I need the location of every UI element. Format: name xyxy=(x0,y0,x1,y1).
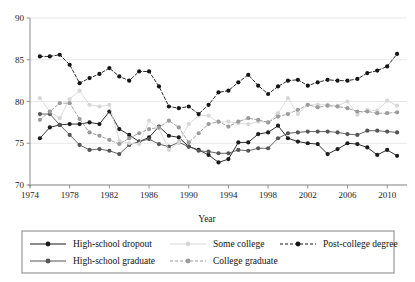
data-point xyxy=(48,54,52,58)
data-point xyxy=(78,81,82,85)
data-point xyxy=(286,131,290,135)
y-tick-label-70: 70 xyxy=(15,180,25,190)
legend-label: Some college xyxy=(213,239,264,249)
data-point xyxy=(345,132,349,136)
data-point xyxy=(147,137,151,141)
data-point xyxy=(137,131,141,135)
data-point xyxy=(38,136,42,140)
data-point xyxy=(127,79,131,83)
data-point xyxy=(58,116,62,120)
x-tick-label-1982: 1982 xyxy=(100,190,118,200)
data-point xyxy=(266,130,270,134)
data-point xyxy=(365,109,369,113)
data-point xyxy=(355,142,359,146)
x-tick-label-2006: 2006 xyxy=(338,190,357,200)
data-point xyxy=(296,112,300,116)
x-tick-label-1998: 1998 xyxy=(259,190,278,200)
data-point xyxy=(335,104,339,108)
legend-item-college-graduate[interactable]: College graduate xyxy=(170,256,278,266)
data-point xyxy=(206,122,210,126)
data-point xyxy=(395,104,399,108)
data-point xyxy=(296,78,300,82)
data-point xyxy=(107,103,111,107)
legend-item-post-college-degree[interactable]: Post-college degree xyxy=(280,239,398,249)
x-tick-label-1994: 1994 xyxy=(219,190,238,200)
data-point xyxy=(355,109,359,113)
data-point xyxy=(335,147,339,151)
data-point xyxy=(147,69,151,73)
data-series-group xyxy=(38,52,399,165)
data-point xyxy=(246,116,250,120)
data-point xyxy=(167,119,171,123)
data-point xyxy=(316,80,320,84)
data-point xyxy=(236,140,240,144)
chart-container: 7075808590 19741978198219861990199419982… xyxy=(0,0,415,282)
data-point xyxy=(87,148,91,152)
data-point xyxy=(197,112,201,116)
x-axis-title: Year xyxy=(198,214,216,224)
data-point xyxy=(375,129,379,133)
legend-item-high-school-graduate[interactable]: High-school graduate xyxy=(30,256,155,266)
data-point xyxy=(385,111,389,115)
data-point xyxy=(216,119,220,123)
legend-border xyxy=(22,231,394,273)
data-point xyxy=(87,130,91,134)
legend-item-some-college[interactable]: Some college xyxy=(170,239,264,249)
data-point xyxy=(78,143,82,147)
data-point xyxy=(127,141,131,145)
data-point xyxy=(68,63,72,67)
data-point xyxy=(107,138,111,142)
data-point xyxy=(306,129,310,133)
data-point xyxy=(226,89,230,93)
data-point xyxy=(226,119,230,123)
data-point xyxy=(167,104,171,108)
data-point xyxy=(296,139,300,143)
x-tick-label-2010: 2010 xyxy=(378,190,397,200)
series-post-college-degree xyxy=(38,52,399,116)
data-point xyxy=(266,92,270,96)
data-point xyxy=(266,146,270,150)
data-point xyxy=(87,103,91,107)
legend-marker-icon xyxy=(186,242,191,247)
data-point xyxy=(385,99,389,103)
data-point xyxy=(316,129,320,133)
data-point xyxy=(246,140,250,144)
data-point xyxy=(306,141,310,145)
data-point xyxy=(345,141,349,145)
data-point xyxy=(97,104,101,108)
data-point xyxy=(157,142,161,146)
data-point xyxy=(58,123,62,127)
data-point xyxy=(117,74,121,78)
series-high-school-graduate xyxy=(38,112,399,156)
data-point xyxy=(226,151,230,155)
data-point xyxy=(187,140,191,144)
data-point xyxy=(167,134,171,138)
data-point xyxy=(137,142,141,146)
data-point xyxy=(306,84,310,88)
data-point xyxy=(395,130,399,134)
data-point xyxy=(38,118,42,122)
chart-legend: High-school dropoutHigh-school graduateS… xyxy=(22,231,398,273)
x-tick-label-1974: 1974 xyxy=(21,190,40,200)
data-point xyxy=(226,124,230,128)
data-point xyxy=(286,112,290,116)
data-point xyxy=(157,84,161,88)
legend-label: College graduate xyxy=(213,256,278,266)
data-point xyxy=(87,120,91,124)
data-point xyxy=(385,148,389,152)
data-point xyxy=(58,101,62,105)
x-tick-label-1978: 1978 xyxy=(61,190,80,200)
data-point xyxy=(97,72,101,76)
data-point xyxy=(316,105,320,109)
line-chart-figure: 7075808590 19741978198219861990199419982… xyxy=(0,0,415,282)
data-point xyxy=(326,152,330,156)
y-tick-label-90: 90 xyxy=(15,13,25,23)
data-point xyxy=(68,101,72,105)
legend-item-high-school-dropout[interactable]: High-school dropout xyxy=(30,239,152,249)
data-point xyxy=(276,136,280,140)
data-point xyxy=(375,69,379,73)
data-point xyxy=(117,152,121,156)
legend-marker-icon xyxy=(46,242,51,247)
data-point xyxy=(97,147,101,151)
data-point xyxy=(58,53,62,57)
